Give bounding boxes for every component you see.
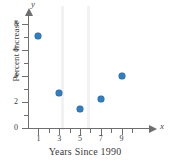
y-axis-major-tick xyxy=(22,24,29,25)
x-axis-arrow-icon xyxy=(149,125,157,133)
x-axis-minor-tick xyxy=(111,128,112,133)
y-axis-minor-tick xyxy=(24,115,29,116)
y-axis-minor-tick xyxy=(24,37,29,38)
x-axis-tick-label: 7 xyxy=(95,134,107,143)
y-axis-major-tick xyxy=(22,102,29,103)
y-axis-arrow-icon xyxy=(25,8,33,16)
y-axis-minor-tick xyxy=(24,63,29,64)
y-axis-minor-tick xyxy=(24,89,29,90)
data-point xyxy=(35,33,41,39)
y-axis-variable-label: y xyxy=(31,0,35,9)
x-axis-minor-tick xyxy=(70,128,71,133)
background-smudge xyxy=(61,6,64,130)
y-axis-major-tick xyxy=(22,50,29,51)
x-axis-tick-label: 5 xyxy=(74,134,86,143)
x-axis-minor-tick xyxy=(49,128,50,133)
x-axis-tick-label: 3 xyxy=(53,134,65,143)
y-axis-line xyxy=(28,14,29,129)
data-point xyxy=(77,106,83,112)
y-axis-major-tick xyxy=(22,128,29,129)
x-axis-title: Years Since 1990 xyxy=(0,146,170,157)
scatter-plot-figure: y x 02468 13579 Percent Increase Years S… xyxy=(0,0,170,162)
data-point xyxy=(119,73,125,79)
x-axis-tick-label: 9 xyxy=(116,134,128,143)
data-point xyxy=(98,96,104,102)
x-axis-minor-tick xyxy=(90,128,91,133)
y-axis-major-tick xyxy=(22,76,29,77)
y-axis-title: Percent Increase xyxy=(11,3,21,99)
background-smudge xyxy=(87,6,90,130)
x-axis-tick-label: 1 xyxy=(32,134,44,143)
x-axis-variable-label: x xyxy=(160,121,164,131)
y-axis-tick-label: 0 xyxy=(4,123,18,132)
x-axis-minor-tick xyxy=(132,128,133,133)
